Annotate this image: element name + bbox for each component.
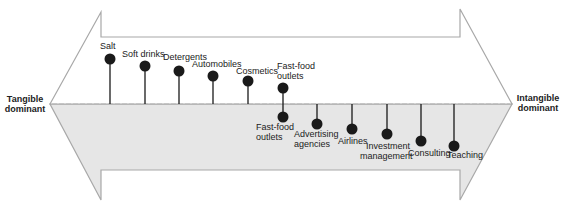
- marker-fast-food-intangible: [278, 112, 289, 123]
- label-airlines: Airlines: [338, 136, 368, 146]
- marker-soft-drinks: [140, 61, 151, 72]
- marker-airlines: [347, 124, 358, 135]
- label-tangible-dominant: Tangibledominant: [5, 94, 46, 114]
- marker-detergents: [174, 66, 185, 77]
- label-cosmetics: Cosmetics: [236, 66, 279, 76]
- marker-automobiles: [208, 71, 219, 82]
- tangibility-spectrum-diagram: Salt Soft drinks Detergents Automobiles …: [0, 0, 566, 214]
- label-intangible-dominant: Intangibledominant: [517, 93, 560, 113]
- label-soft-drinks: Soft drinks: [122, 49, 165, 59]
- marker-investment: [382, 129, 393, 140]
- label-consulting: Consulting: [408, 148, 451, 158]
- marker-consulting: [416, 136, 427, 147]
- label-teaching: Teaching: [447, 150, 483, 160]
- label-salt: Salt: [100, 41, 116, 51]
- marker-salt: [105, 54, 116, 65]
- label-automobiles: Automobiles: [192, 59, 242, 69]
- label-investment-management: Investmentmanagement: [360, 141, 413, 161]
- marker-fast-food-tangible: [278, 83, 289, 94]
- marker-advertising: [312, 119, 323, 130]
- marker-cosmetics: [243, 76, 254, 87]
